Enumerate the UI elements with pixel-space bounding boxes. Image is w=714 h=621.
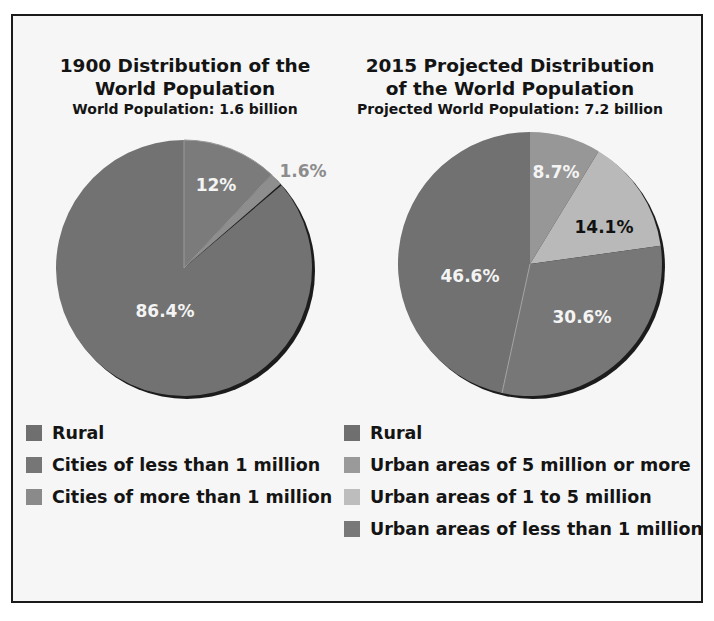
- swatch-cities-more: [26, 489, 42, 505]
- legend-label: Rural: [370, 423, 422, 443]
- swatch-urban-1to5: [344, 489, 360, 505]
- right-label-urban-less1: 30.6%: [553, 307, 612, 327]
- legend-label: Urban areas of 5 million or more: [370, 455, 691, 475]
- legend-label: Cities of more than 1 million: [52, 487, 332, 507]
- left-legend-item-cities-more: Cities of more than 1 million: [26, 481, 332, 513]
- left-legend-item-cities-less: Cities of less than 1 million: [26, 449, 332, 481]
- right-legend-item-rural: Rural: [344, 417, 703, 449]
- right-label-urban-1to5: 14.1%: [575, 217, 634, 237]
- left-label-cities-more: 1.6%: [279, 161, 326, 181]
- left-pie: 12% 1.6% 86.4%: [56, 140, 327, 399]
- swatch-rural: [344, 425, 360, 441]
- right-label-rural: 46.6%: [441, 266, 500, 286]
- left-legend: Rural Cities of less than 1 million Citi…: [26, 417, 332, 513]
- swatch-rural: [26, 425, 42, 441]
- left-legend-item-rural: Rural: [26, 417, 332, 449]
- right-legend-item-urban-1to5: Urban areas of 1 to 5 million: [344, 481, 703, 513]
- left-label-rural: 86.4%: [136, 301, 195, 321]
- left-label-cities-less: 12%: [196, 175, 237, 195]
- right-label-urban-5plus: 8.7%: [532, 162, 579, 182]
- legend-label: Urban areas of 1 to 5 million: [370, 487, 652, 507]
- legend-label: Cities of less than 1 million: [52, 455, 320, 475]
- right-legend-item-urban-5plus: Urban areas of 5 million or more: [344, 449, 703, 481]
- legend-label: Urban areas of less than 1 million: [370, 519, 703, 539]
- swatch-urban-5plus: [344, 457, 360, 473]
- swatch-urban-less1: [344, 521, 360, 537]
- right-legend: Rural Urban areas of 5 million or more U…: [344, 417, 703, 545]
- swatch-cities-less: [26, 457, 42, 473]
- right-pie: 8.7% 14.1% 30.6% 46.6%: [398, 132, 665, 399]
- right-legend-item-urban-less1: Urban areas of less than 1 million: [344, 513, 703, 545]
- legend-label: Rural: [52, 423, 104, 443]
